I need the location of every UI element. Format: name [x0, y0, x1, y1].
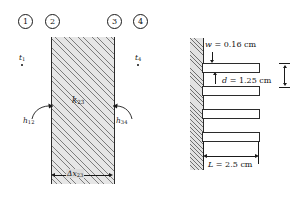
temperature-t4: t4 [135, 53, 141, 66]
fin-thickness-label: w = 0.16 cm [205, 40, 256, 49]
right-diagram: w = 0.16 cm d = 1.25 cm [186, 0, 302, 224]
node-label-4: 4 [138, 18, 143, 26]
t4-subscript: 4 [138, 56, 141, 62]
L-equals: = [216, 160, 223, 169]
fin-length-label: L = 2.5 cm [208, 160, 252, 169]
t4-dot [137, 64, 140, 67]
w-value: 0.16 [224, 40, 242, 49]
d-unit: cm [259, 76, 271, 85]
convection-coefficient-h12: h12 [23, 116, 34, 125]
node-circle-4: 4 [133, 14, 148, 29]
d-value: 1.25 [239, 76, 257, 85]
node-circle-2: 2 [45, 14, 60, 29]
h12-subscript: 12 [28, 119, 35, 125]
base-wall [190, 38, 204, 170]
dx-symbol: Δx [67, 169, 77, 178]
fin-3 [202, 109, 260, 119]
fin-4 [202, 132, 260, 142]
fin-spacing-arrow [213, 72, 217, 84]
fin-thickness-arrow [210, 52, 214, 63]
t1-dot [21, 64, 24, 67]
L-dim-line [207, 156, 255, 157]
figure-canvas: 1 2 3 4 t1 t4 k23 h12 [0, 0, 302, 224]
fin-length-dimension [203, 152, 259, 160]
w-symbol: w [205, 40, 212, 49]
left-diagram: 1 2 3 4 t1 t4 k23 h12 [0, 0, 175, 224]
fin-spacing-label: d = 1.25 cm [222, 76, 271, 85]
thickness-label: Δx23 [66, 169, 84, 178]
node-label-3: 3 [112, 18, 117, 26]
slab-region [51, 37, 115, 184]
convection-coefficient-h34: h34 [116, 116, 127, 125]
L-unit: cm [240, 160, 252, 169]
d-equals: = [230, 76, 237, 85]
k-subscript: 23 [77, 99, 84, 105]
w-unit: cm [244, 40, 256, 49]
node-label-1: 1 [23, 18, 28, 26]
fin-spacing-extent [279, 63, 290, 88]
dx-subscript: 23 [77, 172, 84, 178]
fin-2 [202, 86, 260, 96]
dim-arrow-right [109, 173, 113, 177]
t1-subscript: 1 [22, 56, 25, 62]
node-circle-1: 1 [18, 14, 33, 29]
L-tick-right [258, 142, 259, 164]
L-tick-left [203, 142, 204, 164]
thermal-conductivity-label: k23 [72, 95, 84, 105]
node-circle-3: 3 [107, 14, 122, 29]
L-value: 2.5 [225, 160, 238, 169]
w-equals: = [214, 40, 221, 49]
fin-1 [202, 63, 260, 73]
h34-subscript: 34 [121, 119, 128, 125]
d-symbol: d [222, 76, 227, 85]
node-label-2: 2 [50, 18, 55, 26]
L-symbol: L [208, 160, 213, 169]
temperature-t1: t1 [19, 53, 25, 66]
